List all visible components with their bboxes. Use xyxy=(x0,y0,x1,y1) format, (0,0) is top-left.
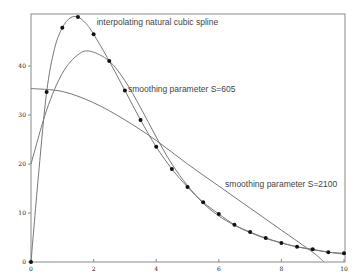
data-point xyxy=(279,241,283,245)
data-point xyxy=(139,118,143,122)
data-point xyxy=(107,59,111,63)
y-tick-label: 30 xyxy=(18,111,26,118)
data-point xyxy=(311,247,315,251)
annotation-label: smoothing parameter S=605 xyxy=(128,84,236,94)
data-point xyxy=(60,26,64,30)
x-tick-label: 0 xyxy=(29,265,33,272)
annotation-label: smoothing parameter S=2100 xyxy=(225,179,337,189)
curves xyxy=(31,16,344,262)
data-point xyxy=(45,90,49,94)
data-point xyxy=(29,260,33,264)
y-tick-label: 0 xyxy=(22,258,26,265)
data-point xyxy=(342,251,346,255)
data-point xyxy=(232,223,236,227)
data-point xyxy=(123,89,127,93)
y-tick-label: 20 xyxy=(18,160,26,167)
data-point xyxy=(170,167,174,171)
y-tick-label: 10 xyxy=(18,209,26,216)
y-tick-label: 40 xyxy=(18,62,26,69)
data-point xyxy=(92,32,96,36)
x-tick-label: 10 xyxy=(340,265,348,272)
annotation-label: interpolating natural cubic spline xyxy=(97,17,219,27)
data-point xyxy=(186,185,190,189)
x-tick-label: 2 xyxy=(92,265,96,272)
x-axis-ticks: 0246810 xyxy=(29,259,348,272)
x-tick-label: 6 xyxy=(217,265,221,272)
data-point xyxy=(201,200,205,204)
data-point xyxy=(154,145,158,149)
annotations: interpolating natural cubic splinesmooth… xyxy=(97,17,338,189)
y-axis-ticks: 010203040 xyxy=(18,62,31,265)
x-tick-label: 4 xyxy=(154,265,158,272)
data-point xyxy=(76,15,80,19)
x-tick-label: 8 xyxy=(279,265,283,272)
data-point xyxy=(326,250,330,254)
data-points xyxy=(29,15,346,264)
data-point xyxy=(264,236,268,240)
plot-frame xyxy=(31,14,345,262)
smoothing-s605-curve xyxy=(31,51,344,254)
chart: 0246810 010203040 interpolating natural … xyxy=(0,0,362,279)
interpolating-spline-curve xyxy=(31,16,344,262)
data-point xyxy=(217,212,221,216)
data-point xyxy=(295,245,299,249)
data-point xyxy=(248,230,252,234)
